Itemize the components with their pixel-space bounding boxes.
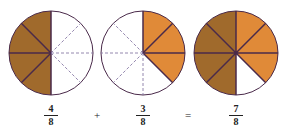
fraction-three-eighths: 3 8	[133, 104, 153, 127]
numerator: 7	[226, 104, 246, 114]
equals-sign: =	[181, 109, 195, 121]
pie-four-eighths	[9, 11, 93, 95]
pie-three-eighths	[101, 11, 185, 95]
fraction-pies	[0, 0, 293, 105]
denominator: 8	[133, 117, 153, 127]
numerator: 3	[133, 104, 153, 114]
fraction-seven-eighths: 7 8	[226, 104, 246, 127]
fraction-four-eighths: 4 8	[41, 104, 61, 127]
numerator: 4	[41, 104, 61, 114]
pie-seven-eighths	[194, 11, 278, 95]
denominator: 8	[41, 117, 61, 127]
denominator: 8	[226, 117, 246, 127]
plus-sign: +	[90, 109, 104, 121]
